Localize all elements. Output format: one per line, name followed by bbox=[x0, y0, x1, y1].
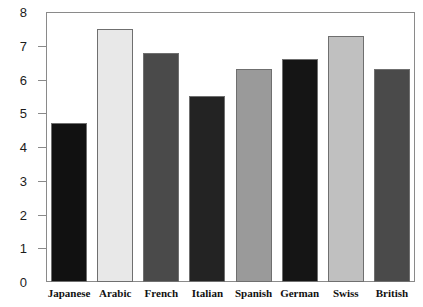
x-tick-label-french: French bbox=[138, 286, 184, 300]
y-tick-label: 1 bbox=[5, 242, 27, 255]
bar-german bbox=[282, 59, 318, 282]
x-tick-label-british: British bbox=[369, 286, 415, 300]
bar-chart: 876543210 JapaneseArabicFrenchItalianSpa… bbox=[0, 0, 423, 307]
y-tick-mark bbox=[38, 248, 46, 249]
y-tick-mark bbox=[38, 147, 46, 148]
bar-spanish bbox=[236, 69, 272, 282]
y-tick-label: 8 bbox=[5, 6, 27, 19]
x-axis: JapaneseArabicFrenchItalianSpanishGerman… bbox=[46, 286, 415, 307]
x-tick-label-german: German bbox=[277, 286, 323, 300]
x-tick-label-swiss: Swiss bbox=[323, 286, 369, 300]
bar-french bbox=[143, 53, 179, 283]
y-tick-label: 4 bbox=[5, 141, 27, 154]
y-tick-label: 5 bbox=[5, 107, 27, 120]
x-tick-label-italian: Italian bbox=[184, 286, 230, 300]
y-tick-mark bbox=[38, 215, 46, 216]
y-tick-label: 6 bbox=[5, 73, 27, 86]
bar-swiss bbox=[328, 36, 364, 282]
y-tick-label: 7 bbox=[5, 39, 27, 52]
y-axis: 876543210 bbox=[0, 0, 46, 307]
y-tick-label: 0 bbox=[5, 276, 27, 289]
y-tick-mark bbox=[38, 80, 46, 81]
x-tick-label-spanish: Spanish bbox=[231, 286, 277, 300]
x-tick-label-arabic: Arabic bbox=[92, 286, 138, 300]
bar-arabic bbox=[97, 29, 133, 282]
bar-italian bbox=[189, 96, 225, 282]
y-tick-mark bbox=[38, 46, 46, 47]
bars-layer bbox=[46, 12, 415, 282]
y-tick-label: 2 bbox=[5, 208, 27, 221]
y-tick-label: 3 bbox=[5, 174, 27, 187]
x-tick-label-japanese: Japanese bbox=[46, 286, 92, 300]
y-tick-mark bbox=[38, 181, 46, 182]
bar-british bbox=[374, 69, 410, 282]
y-tick-mark bbox=[38, 113, 46, 114]
bar-japanese bbox=[51, 123, 87, 282]
